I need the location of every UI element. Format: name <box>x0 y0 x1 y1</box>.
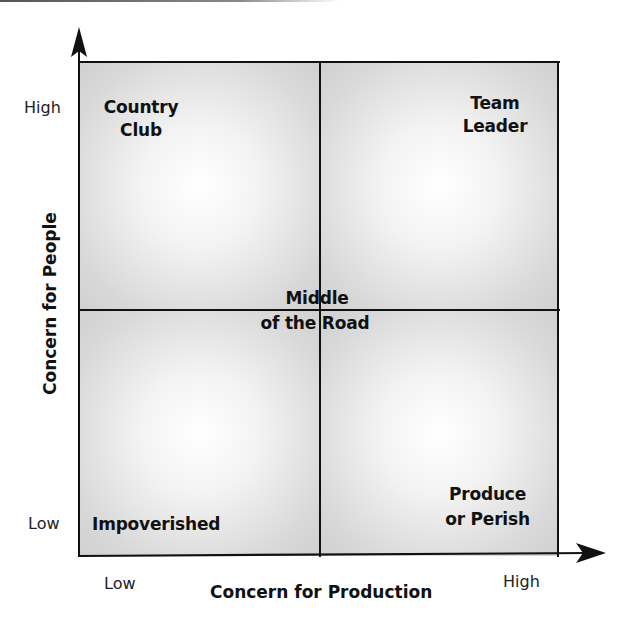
label-country-club: Country Club <box>96 96 186 142</box>
label-line: Country <box>96 96 186 119</box>
x-axis-line <box>78 553 592 556</box>
label-team-leader: Team Leader <box>455 92 535 138</box>
label-line: Team <box>455 92 535 115</box>
label-line: Middle <box>250 286 380 311</box>
label-impoverished: Impoverished <box>92 513 220 536</box>
label-line: Impoverished <box>92 513 220 536</box>
label-middle-of-the-road: Middle of the Road <box>250 286 380 336</box>
x-axis-low-label: Low <box>104 574 136 593</box>
x-axis-high-label: High <box>503 572 540 591</box>
y-axis-high-label: High <box>24 98 61 117</box>
label-line: or Perish <box>440 507 535 532</box>
label-produce-or-perish: Produce or Perish <box>440 482 535 532</box>
y-axis-low-label: Low <box>28 514 60 533</box>
label-line: Produce <box>440 482 535 507</box>
label-line: Leader <box>455 115 535 138</box>
label-line: Club <box>96 119 186 142</box>
y-axis-title: Concern for People <box>40 225 60 395</box>
x-axis-title: Concern for Production <box>210 582 432 602</box>
label-line: of the Road <box>250 311 380 336</box>
